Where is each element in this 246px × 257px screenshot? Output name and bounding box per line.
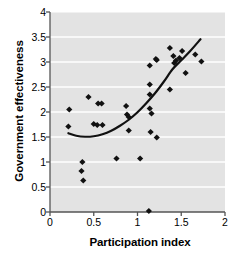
chart-canvas — [0, 0, 246, 257]
scatter-chart: Government effectiveness Participation i… — [0, 0, 246, 257]
